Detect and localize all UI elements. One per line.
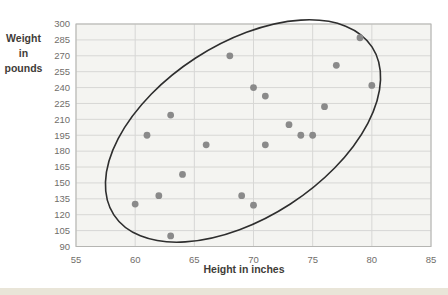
y-tick-label: 90 — [59, 241, 70, 252]
x-tick-label: 85 — [426, 254, 437, 265]
data-point — [203, 141, 210, 148]
y-tick-label: 240 — [54, 82, 70, 93]
data-point — [226, 52, 233, 59]
x-tick-label: 55 — [71, 254, 82, 265]
y-tick-label: 285 — [54, 34, 70, 45]
data-point — [333, 62, 340, 69]
data-point — [286, 121, 293, 128]
y-axis-title: Weight in pounds — [0, 31, 47, 76]
page-bottom-strip — [0, 288, 448, 295]
y-tick-label: 105 — [54, 225, 70, 236]
y-tick-label: 135 — [54, 193, 70, 204]
data-point — [321, 103, 328, 110]
data-point — [179, 171, 186, 178]
chart-canvas: 3002852702552402252101951801651501351201… — [0, 0, 448, 295]
y-tick-label: 255 — [54, 66, 70, 77]
x-tick-label: 60 — [130, 254, 141, 265]
y-tick-label: 195 — [54, 130, 70, 141]
scatter-plot: 3002852702552402252101951801651501351201… — [0, 0, 448, 295]
y-axis-title-line2: pounds — [0, 61, 47, 76]
y-tick-label: 150 — [54, 177, 70, 188]
data-point — [132, 201, 139, 208]
x-axis-title: Height in inches — [164, 263, 324, 275]
data-point — [167, 233, 174, 240]
data-point — [144, 132, 151, 139]
y-tick-label: 120 — [54, 209, 70, 220]
y-tick-label: 270 — [54, 50, 70, 61]
data-point — [167, 112, 174, 119]
y-tick-label: 210 — [54, 114, 70, 125]
x-tick-label: 80 — [367, 254, 378, 265]
y-tick-label: 225 — [54, 98, 70, 109]
y-tick-label: 165 — [54, 161, 70, 172]
data-point — [309, 132, 316, 139]
data-point — [297, 132, 304, 139]
data-point — [250, 202, 257, 209]
data-point — [357, 34, 364, 41]
data-point — [238, 192, 245, 199]
data-point — [262, 141, 269, 148]
y-axis-title-line1: Weight in — [0, 31, 47, 61]
y-tick-label: 180 — [54, 145, 70, 156]
y-tick-label: 300 — [54, 18, 70, 29]
data-point — [262, 93, 269, 100]
data-point — [155, 192, 162, 199]
data-point — [250, 84, 257, 91]
data-point — [368, 82, 375, 89]
